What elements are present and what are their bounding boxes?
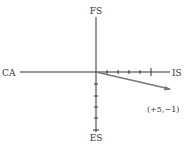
vector-arrow [96,72,170,89]
axis-label-bottom: ES [90,133,103,143]
axis-label-top: FS [90,6,102,16]
vector-diagram: FS ES CA IS (+5,−1) [0,0,184,144]
axis-label-left: CA [2,68,16,78]
axis-label-right: IS [172,68,182,78]
arrowhead-icon [164,86,171,91]
point-label: (+5,−1) [147,105,179,114]
